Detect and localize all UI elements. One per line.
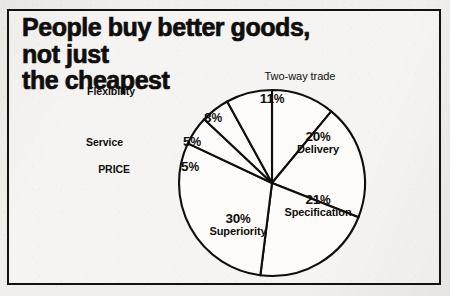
- slice-label-block: 30%Superiority: [193, 212, 283, 237]
- slice-category-label: Two-way trade: [245, 71, 355, 82]
- slice-value-label: 20%: [273, 130, 363, 144]
- slice-value-label: 5%: [168, 160, 212, 174]
- percent-sign: %: [190, 135, 200, 149]
- percent-sign: %: [320, 130, 330, 144]
- slice-category-label: Superiority: [193, 226, 283, 237]
- pie-chart: 11%Two-way trade20%Delivery21%Specificat…: [7, 9, 441, 285]
- scanned-page: People buy better goods, not just the ch…: [0, 0, 450, 296]
- slice-value-label: 21%: [273, 193, 363, 207]
- slice-value-label: 5%: [170, 135, 214, 149]
- percent-sign: %: [320, 193, 330, 207]
- slice-category-label: Service: [68, 137, 123, 148]
- slice-label-block: 20%Delivery: [273, 130, 363, 155]
- percent-sign: %: [274, 92, 284, 106]
- slice-value-number: 30: [225, 211, 240, 226]
- slice-value-number: 20: [305, 129, 320, 144]
- slice-value-number: 21: [305, 192, 320, 207]
- slice-label-block: 21%Specification: [273, 193, 363, 218]
- slice-value-label: 8%: [191, 111, 235, 125]
- slice-category-label: PRICE: [75, 164, 130, 175]
- percent-sign: %: [211, 111, 221, 125]
- slice-value-label: 30%: [193, 212, 283, 226]
- slice-value-number: 11: [260, 91, 274, 106]
- slice-category-label: Specification: [273, 207, 363, 218]
- percent-sign: %: [188, 160, 198, 174]
- slice-value-label: 11%: [250, 92, 294, 106]
- percent-sign: %: [240, 212, 250, 226]
- slice-category-label: Delivery: [273, 144, 363, 155]
- slice-category-label: Flexibility: [80, 86, 135, 97]
